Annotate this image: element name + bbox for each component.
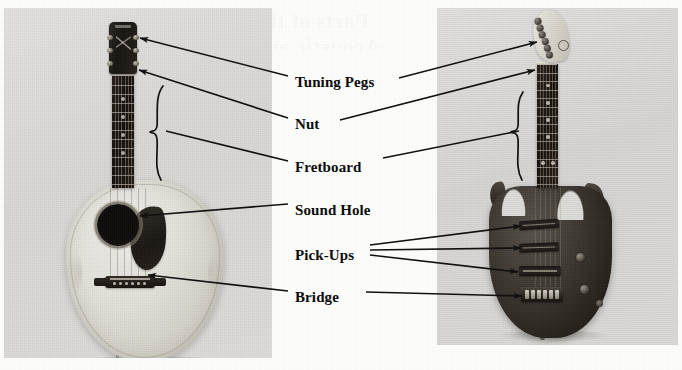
electric-neck-string-2 bbox=[543, 64, 544, 188]
acoustic-bridge-pin-5 bbox=[137, 282, 140, 285]
electric-cutaway-left bbox=[500, 186, 526, 216]
electric-neck-string-4 bbox=[549, 64, 550, 188]
electric-bridge-saddle-2 bbox=[531, 290, 535, 299]
acoustic-tuning-peg-6 bbox=[133, 61, 139, 66]
acoustic-tuning-peg-1 bbox=[107, 35, 113, 40]
electric-headstock bbox=[530, 8, 572, 64]
acoustic-sound-hole bbox=[97, 204, 139, 246]
electric-nut bbox=[537, 62, 557, 65]
electric-bridge-saddle-1 bbox=[525, 290, 529, 299]
electric-neck-string-5 bbox=[552, 64, 553, 188]
acoustic-bridge-pin-4 bbox=[131, 282, 134, 285]
acoustic-bridge-pin-3 bbox=[125, 282, 128, 285]
electric-bridge bbox=[521, 287, 563, 302]
acoustic-bridge-pin-6 bbox=[143, 282, 146, 285]
electric-tone-knob bbox=[580, 285, 589, 294]
electric-bridge-saddle-6 bbox=[555, 290, 559, 299]
electric-neck-string-3 bbox=[546, 64, 547, 188]
diagram-page: Parts of the Guitar Acoustic and Electri… bbox=[0, 0, 682, 370]
label-fretboard: Fretboard bbox=[295, 160, 361, 175]
acoustic-headstock-logo bbox=[115, 25, 131, 28]
label-bridge: Bridge bbox=[295, 290, 339, 305]
electric-pickup-neck-poles bbox=[523, 223, 555, 227]
acoustic-guitar-photo bbox=[4, 8, 272, 358]
electric-bridge-saddle-4 bbox=[543, 290, 547, 299]
label-pick-ups: Pick-Ups bbox=[295, 248, 354, 263]
acoustic-fretboard bbox=[112, 76, 134, 188]
acoustic-bridge-saddle bbox=[110, 278, 150, 280]
electric-bridge-saddle-3 bbox=[537, 290, 541, 299]
acoustic-headstock bbox=[109, 22, 137, 74]
electric-fretboard bbox=[537, 64, 558, 188]
electric-volume-knob bbox=[576, 253, 585, 262]
electric-bridge-saddle-5 bbox=[549, 290, 553, 299]
acoustic-neck-string-3 bbox=[121, 76, 122, 188]
acoustic-bridge-pin-1 bbox=[113, 282, 116, 285]
electric-guitar-photo bbox=[437, 8, 678, 345]
acoustic-neck-string-2 bbox=[118, 76, 119, 188]
label-tuning-pegs: Tuning Pegs bbox=[295, 75, 374, 90]
acoustic-neck-string-6 bbox=[131, 76, 132, 188]
acoustic-neck-string-5 bbox=[128, 76, 129, 188]
electric-neck-string-1 bbox=[540, 64, 541, 188]
acoustic-tuning-peg-2 bbox=[107, 48, 113, 53]
electric-tuning-peg-6 bbox=[545, 51, 553, 59]
acoustic-headstock-inlay bbox=[116, 32, 131, 52]
electric-neck-string-6 bbox=[555, 64, 556, 188]
acoustic-bridge bbox=[105, 276, 155, 288]
acoustic-tuning-peg-5 bbox=[133, 48, 139, 53]
electric-pickup-middle-poles bbox=[523, 246, 555, 249]
electric-pickup-bridge-poles bbox=[523, 270, 557, 272]
acoustic-tuning-peg-3 bbox=[107, 61, 113, 66]
acoustic-neck-string-1 bbox=[115, 76, 116, 188]
acoustic-bridge-pin-2 bbox=[119, 282, 122, 285]
acoustic-tuning-peg-4 bbox=[133, 35, 139, 40]
acoustic-neck-string-4 bbox=[125, 76, 126, 188]
electric-pickup-middle bbox=[519, 242, 559, 252]
electric-output-jack bbox=[596, 300, 603, 307]
label-nut: Nut bbox=[295, 117, 319, 132]
acoustic-bridge-wing-right bbox=[154, 278, 166, 286]
electric-pickup-bridge bbox=[519, 266, 561, 276]
electric-string-tree bbox=[558, 40, 569, 51]
label-sound-hole: Sound Hole bbox=[295, 203, 371, 218]
